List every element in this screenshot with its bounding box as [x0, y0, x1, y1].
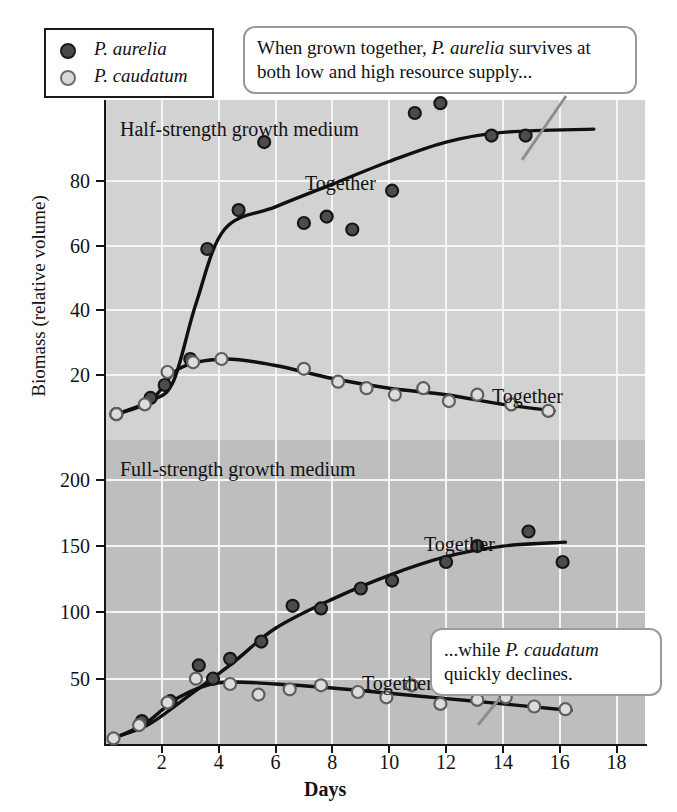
open-circle-icon: [60, 70, 76, 86]
gridline-horizontal: [105, 245, 645, 247]
panel-band-half-strength: [105, 100, 645, 440]
panel-band-full-strength: [105, 440, 645, 745]
legend-label-aurelia: P. aurelia: [94, 36, 167, 62]
gridline-horizontal: [105, 374, 645, 376]
chart-figure: 246810121416182040608050100150200 Biomas…: [0, 0, 677, 812]
x-axis-title: Days: [304, 778, 346, 801]
callout-lower: ...while P. caudatum quickly declines.: [430, 628, 662, 696]
gridline-horizontal: [105, 309, 645, 311]
callout-upper: When grown together, P. aurelia survives…: [243, 26, 637, 94]
x-tick-label: 10: [372, 752, 406, 772]
curve-label-lower-aurelia: Together: [424, 533, 495, 556]
y-tick-label: 40: [44, 300, 90, 320]
gridline-vertical: [161, 100, 163, 745]
y-tick-label: 150: [44, 536, 90, 556]
x-axis-line: [104, 744, 647, 746]
y-tick-label: 100: [44, 602, 90, 622]
x-tick-label: 6: [259, 752, 293, 772]
gridline-horizontal: [105, 611, 645, 613]
gridline-vertical: [218, 100, 220, 745]
callout-upper-species: P. aurelia: [431, 37, 504, 58]
x-tick-label: 2: [145, 752, 179, 772]
y-tick-label: 20: [44, 365, 90, 385]
x-tick-label: 18: [600, 752, 634, 772]
y-tick-label: 80: [44, 171, 90, 191]
x-tick-label: 8: [315, 752, 349, 772]
legend: P. aurelia P. caudatum: [44, 28, 214, 98]
gridline-vertical: [275, 100, 277, 745]
panel-label-half-strength: Half-strength growth medium: [120, 118, 359, 141]
callout-lower-species: P. caudatum: [505, 639, 599, 660]
curve-label-upper-aurelia: Together: [305, 172, 376, 195]
x-tick-label: 16: [543, 752, 577, 772]
gridline-vertical: [388, 100, 390, 745]
filled-circle-icon: [60, 43, 76, 59]
y-axis-line: [104, 100, 106, 746]
x-tick-label: 14: [486, 752, 520, 772]
x-tick-label: 4: [202, 752, 236, 772]
y-axis-title: Biomass (relative volume): [28, 171, 50, 421]
curve-label-lower-caudatum: Together: [362, 672, 433, 695]
x-tick-label: 12: [429, 752, 463, 772]
y-tick-label: 200: [44, 470, 90, 490]
y-tick-label: 50: [44, 669, 90, 689]
gridline-horizontal: [105, 545, 645, 547]
curve-label-upper-caudatum: Together: [492, 385, 563, 408]
legend-label-caudatum: P. caudatum: [94, 63, 188, 89]
gridline-vertical: [331, 100, 333, 745]
y-tick-label: 60: [44, 236, 90, 256]
panel-label-full-strength: Full-strength growth medium: [120, 458, 356, 481]
